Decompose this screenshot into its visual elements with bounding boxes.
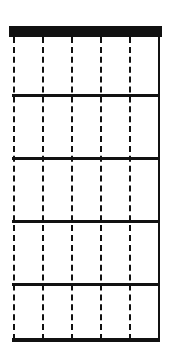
string-4 bbox=[100, 37, 102, 340]
fret-line-4 bbox=[12, 283, 160, 286]
string-3 bbox=[71, 37, 73, 340]
fret-line-3 bbox=[12, 220, 160, 223]
string-5 bbox=[129, 37, 131, 340]
string-6 bbox=[158, 37, 160, 340]
fret-line-1 bbox=[12, 94, 160, 97]
chord-diagram bbox=[0, 0, 170, 357]
fret-line-5 bbox=[12, 338, 160, 342]
string-1 bbox=[13, 37, 15, 340]
string-2 bbox=[42, 37, 44, 340]
fret-line-2 bbox=[12, 157, 160, 160]
nut-bar bbox=[9, 26, 162, 37]
